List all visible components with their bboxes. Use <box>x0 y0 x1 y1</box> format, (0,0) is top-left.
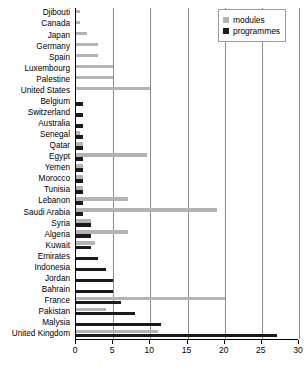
bar-row <box>76 218 298 229</box>
bar-programmes <box>76 124 83 127</box>
axis-tick-label: 10 <box>145 345 154 355</box>
bar-row <box>76 41 298 52</box>
bar-row <box>76 85 298 96</box>
bar-programmes <box>76 290 113 293</box>
axis-tick <box>75 340 76 344</box>
bar-modules <box>76 186 83 189</box>
bar-modules <box>76 241 95 244</box>
bar-modules <box>76 43 98 46</box>
bar-row <box>76 251 298 262</box>
bar-row <box>76 328 298 339</box>
bar-modules <box>76 164 83 167</box>
bar-modules <box>76 32 87 35</box>
category-label: France <box>0 296 73 307</box>
category-label: Pakistan <box>0 307 73 318</box>
bar-row <box>76 63 298 74</box>
bar-programmes <box>76 102 83 105</box>
bar-row <box>76 306 298 317</box>
bar-programmes <box>76 190 83 193</box>
category-label: Spain <box>0 52 73 63</box>
value-axis: 051015202530 <box>75 340 298 360</box>
bar-row <box>76 284 298 295</box>
bar-modules <box>76 175 83 178</box>
plot-area <box>75 8 298 340</box>
bar-row <box>76 196 298 207</box>
legend-item: modules <box>223 15 280 25</box>
legend-item: programmes <box>223 26 280 36</box>
axis-tick-label: 0 <box>73 345 78 355</box>
bar-row <box>76 229 298 240</box>
category-label: Kuwait <box>0 240 73 251</box>
category-label: Germany <box>0 41 73 52</box>
axis-tick <box>261 340 262 344</box>
bar-row <box>76 173 298 184</box>
bar-row <box>76 52 298 63</box>
category-label: Tunisia <box>0 185 73 196</box>
axis-tick-label: 15 <box>182 345 191 355</box>
axis-tick-label: 30 <box>293 345 302 355</box>
bar-row <box>76 151 298 162</box>
category-label: Algeria <box>0 229 73 240</box>
category-label: Switzerland <box>0 108 73 119</box>
bar-modules <box>76 54 98 57</box>
bar-modules <box>76 230 128 233</box>
bar-modules <box>76 131 80 134</box>
axis-tick-label: 25 <box>256 345 265 355</box>
bar-modules <box>76 10 80 13</box>
category-label: Belgium <box>0 97 73 108</box>
bar-modules <box>76 208 217 211</box>
bar-modules <box>76 197 128 200</box>
category-label: Canada <box>0 19 73 30</box>
gridline <box>299 8 300 339</box>
category-label: Saudi Arabia <box>0 207 73 218</box>
bar-chart: DjiboutiCanadaJapanGermanySpainLuxembour… <box>0 0 306 373</box>
category-label: Syria <box>0 218 73 229</box>
category-label: Australia <box>0 119 73 130</box>
legend-swatch-icon <box>223 17 229 23</box>
bar-programmes <box>76 113 83 116</box>
bar-row <box>76 240 298 251</box>
category-label: Emirates <box>0 251 73 262</box>
bar-row <box>76 317 298 328</box>
bar-programmes <box>76 246 91 249</box>
legend-label: modules <box>233 15 265 25</box>
bar-row <box>76 162 298 173</box>
axis-tick <box>149 340 150 344</box>
bar-programmes <box>76 146 83 149</box>
category-label: Morocco <box>0 174 73 185</box>
bar-programmes <box>76 334 277 337</box>
bar-row <box>76 295 298 306</box>
bar-programmes <box>76 223 91 226</box>
bar-row <box>76 207 298 218</box>
bar-row <box>76 140 298 151</box>
bar-modules <box>76 76 113 79</box>
bar-modules <box>76 87 150 90</box>
legend-swatch-icon <box>223 28 229 34</box>
category-label: Luxembourg <box>0 63 73 74</box>
axis-tick <box>112 340 113 344</box>
category-label: Yemen <box>0 163 73 174</box>
category-label: Bahrain <box>0 285 73 296</box>
category-label: Malysia <box>0 318 73 329</box>
bar-programmes <box>76 234 91 237</box>
axis-tick <box>298 340 299 344</box>
category-label: Senegal <box>0 130 73 141</box>
bar-row <box>76 118 298 129</box>
category-axis-labels: DjiboutiCanadaJapanGermanySpainLuxembour… <box>0 8 73 340</box>
bar-modules <box>76 297 225 300</box>
category-label: Palestine <box>0 74 73 85</box>
bar-modules <box>76 21 80 24</box>
legend-label: programmes <box>233 26 280 36</box>
bar-rows <box>76 8 298 339</box>
category-label: Qatar <box>0 141 73 152</box>
bar-programmes <box>76 268 106 271</box>
category-label: United Kingdom <box>0 329 73 340</box>
bar-modules <box>76 142 83 145</box>
bar-programmes <box>76 201 83 204</box>
category-label: Egypt <box>0 152 73 163</box>
axis-tick <box>224 340 225 344</box>
axis-tick <box>187 340 188 344</box>
bar-modules <box>76 65 113 68</box>
bar-row <box>76 185 298 196</box>
axis-tick-label: 20 <box>219 345 228 355</box>
